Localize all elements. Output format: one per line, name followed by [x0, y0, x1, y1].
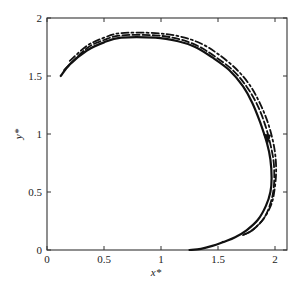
y-tick-label: 0.5: [28, 186, 42, 198]
chart: 00.511.5200.511.52 x* y*: [0, 0, 301, 289]
series-layer: [61, 33, 276, 250]
x-axis-label: x*: [150, 266, 162, 278]
x-tick-label: 0.5: [97, 253, 111, 265]
x-tick-label: 1: [158, 253, 164, 265]
y-axis-label: y*: [12, 128, 24, 140]
x-tick-label: 2: [272, 253, 278, 265]
y-tick-label: 2: [37, 12, 43, 24]
y-tick-label: 1.5: [28, 70, 42, 82]
series-dashed: [64, 35, 274, 236]
x-tick-label: 0: [44, 253, 50, 265]
series-dash-dot: [70, 33, 276, 235]
x-tick-label: 1.5: [211, 253, 225, 265]
series-solid: [61, 37, 272, 250]
y-tick-label: 0: [37, 244, 43, 256]
axis-ticks: 00.511.5200.511.52: [28, 12, 287, 265]
y-tick-label: 1: [37, 128, 43, 140]
